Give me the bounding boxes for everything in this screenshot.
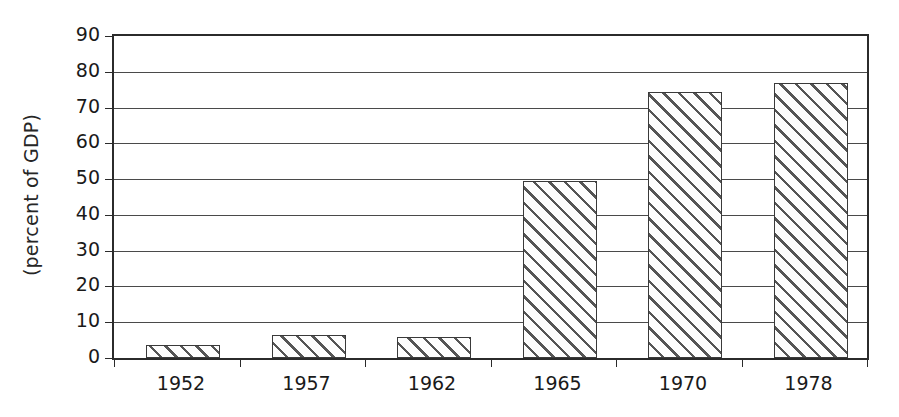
bar bbox=[272, 335, 346, 358]
x-axis-tick-labels: 195219571962196519701978 bbox=[112, 372, 865, 412]
x-axis-tick-mark bbox=[616, 358, 617, 367]
gridline bbox=[114, 108, 867, 109]
bar-chart-figure: (percent of GDP) 0102030405060708090 195… bbox=[0, 0, 899, 417]
y-axis-tick-mark bbox=[105, 358, 114, 359]
x-axis-tick-label: 1965 bbox=[533, 372, 581, 394]
y-axis-tick-label: 70 bbox=[76, 95, 100, 117]
bar bbox=[774, 83, 848, 358]
gridline bbox=[114, 322, 867, 323]
y-axis-tick-label: 10 bbox=[76, 309, 100, 331]
y-axis-tick-mark bbox=[105, 143, 114, 144]
y-axis-tick-label: 50 bbox=[76, 166, 100, 188]
y-axis-tick-mark bbox=[105, 36, 114, 37]
gridline bbox=[114, 143, 867, 144]
bar bbox=[397, 337, 471, 358]
x-axis-tick-mark bbox=[240, 358, 241, 367]
x-axis-tick-label: 1957 bbox=[282, 372, 330, 394]
y-axis-tick-label: 30 bbox=[76, 238, 100, 260]
gridline bbox=[114, 179, 867, 180]
x-axis-tick-mark bbox=[867, 358, 868, 367]
y-axis-tick-label: 60 bbox=[76, 130, 100, 152]
y-axis-tick-mark bbox=[105, 251, 114, 252]
y-axis-tick-label: 90 bbox=[76, 23, 100, 45]
y-axis-tick-label: 20 bbox=[76, 273, 100, 295]
x-axis-tick-mark bbox=[742, 358, 743, 367]
y-axis-tick-mark bbox=[105, 286, 114, 287]
gridline bbox=[114, 72, 867, 73]
y-axis-tick-labels: 0102030405060708090 bbox=[58, 0, 100, 417]
y-axis-tick-mark bbox=[105, 215, 114, 216]
y-axis-tick-mark bbox=[105, 179, 114, 180]
y-axis-tick-label: 40 bbox=[76, 202, 100, 224]
y-axis-tick-mark bbox=[105, 108, 114, 109]
y-axis-title-container: (percent of GDP) bbox=[0, 0, 62, 390]
x-axis-tick-mark bbox=[491, 358, 492, 367]
bar bbox=[648, 92, 722, 358]
x-axis-tick-label: 1952 bbox=[157, 372, 205, 394]
bar bbox=[523, 181, 597, 358]
bar bbox=[146, 345, 220, 358]
x-axis-tick-label: 1962 bbox=[408, 372, 456, 394]
plot-area bbox=[112, 34, 869, 360]
y-axis-tick-mark bbox=[105, 322, 114, 323]
x-axis-tick-mark bbox=[365, 358, 366, 367]
y-axis-tick-label: 0 bbox=[88, 345, 100, 367]
y-axis-tick-label: 80 bbox=[76, 59, 100, 81]
y-axis-title: (percent of GDP) bbox=[20, 114, 42, 276]
y-axis-tick-mark bbox=[105, 72, 114, 73]
x-axis-tick-label: 1970 bbox=[659, 372, 707, 394]
x-axis-tick-label: 1978 bbox=[784, 372, 832, 394]
gridline bbox=[114, 286, 867, 287]
gridline bbox=[114, 215, 867, 216]
x-axis-tick-mark bbox=[114, 358, 115, 367]
gridline bbox=[114, 251, 867, 252]
